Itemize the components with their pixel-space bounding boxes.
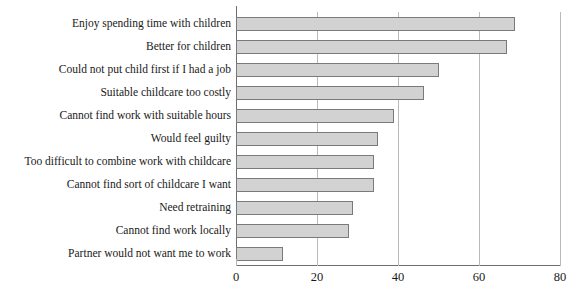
bar — [236, 40, 507, 54]
x-tick-label-40: 40 — [378, 270, 418, 285]
x-tick-label-0: 0 — [216, 270, 256, 285]
bar — [236, 247, 283, 261]
bar-row — [236, 109, 560, 123]
bar-row — [236, 17, 560, 31]
category-label: Enjoy spending time with children — [0, 16, 231, 30]
bar-row — [236, 155, 560, 169]
category-label: Need retraining — [0, 200, 231, 214]
category-label: Partner would not want me to work — [0, 246, 231, 260]
bar-row — [236, 132, 560, 146]
bar-row — [236, 178, 560, 192]
x-tick-label-80: 80 — [540, 270, 579, 285]
bar — [236, 224, 349, 238]
bar-row — [236, 40, 560, 54]
category-label: Would feel guilty — [0, 131, 231, 145]
bar — [236, 155, 374, 169]
bar-row — [236, 201, 560, 215]
bar — [236, 178, 374, 192]
bar-row — [236, 86, 560, 100]
x-tick-40 — [398, 259, 399, 266]
category-label: Cannot find work locally — [0, 223, 231, 237]
bar-row — [236, 63, 560, 77]
category-label: Could not put child first if I had a job — [0, 62, 231, 76]
x-tick-60 — [479, 259, 480, 266]
category-label: Better for children — [0, 39, 231, 53]
category-label: Suitable childcare too costly — [0, 85, 231, 99]
bar — [236, 17, 515, 31]
bar — [236, 132, 378, 146]
chart-page: Enjoy spending time with childrenBetter … — [0, 0, 579, 298]
bar — [236, 63, 439, 77]
bar — [236, 201, 353, 215]
category-label: Cannot find sort of childcare I want — [0, 177, 231, 191]
plot-area — [236, 12, 560, 265]
x-tick-0 — [236, 259, 237, 266]
bar — [236, 109, 394, 123]
category-label: Too difficult to combine work with child… — [0, 154, 231, 168]
bar-row — [236, 224, 560, 238]
gridline-80 — [560, 12, 561, 265]
x-tick-label-60: 60 — [459, 270, 499, 285]
bar — [236, 86, 424, 100]
x-tick-label-20: 20 — [297, 270, 337, 285]
x-tick-80 — [560, 259, 561, 266]
category-label: Cannot find work with suitable hours — [0, 108, 231, 122]
x-tick-20 — [317, 259, 318, 266]
